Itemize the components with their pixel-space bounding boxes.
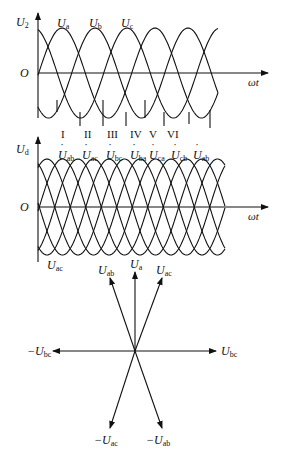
segment-label-6: VI [167, 129, 179, 140]
diagram-canvas [0, 0, 282, 454]
bottom-corner-label: Uac [47, 259, 63, 273]
top-origin-label: O [20, 67, 29, 79]
segment-ticks [57, 100, 210, 128]
phasor-label-uac: Uac [156, 264, 172, 278]
segment-label-2: II [84, 129, 91, 140]
bottom-y-axis-label: Ud [16, 143, 29, 157]
curve-label-ub: Ub [89, 17, 102, 31]
conduct-label-ucb: Ucb [171, 149, 187, 163]
conduct-label-uab: Uab [58, 149, 74, 163]
conduct-label-uba: Uba [130, 149, 146, 163]
top-y-axis-label: U2 [16, 16, 29, 30]
curve-label-uc: Uc [121, 17, 133, 31]
phasor-neg-uab [135, 351, 162, 428]
phasor-label-ua: Ua [130, 258, 142, 272]
curve-label-ua: Ua [57, 17, 69, 31]
phasor-vectors [53, 272, 216, 428]
segment-label-4: IV [130, 129, 142, 140]
phasor-uab [110, 278, 135, 351]
top-x-axis-label: ωt [248, 77, 259, 88]
phasor-uac [135, 278, 162, 351]
phasor-label-ubc: Ubc [221, 345, 237, 359]
phasor-label-uab: Uab [98, 264, 114, 278]
conduct-label-uca: Uca [149, 149, 165, 163]
segment-label-3: III [107, 129, 118, 140]
segment-label-5: V [149, 129, 157, 140]
conduct-label-ubc: Ubc [106, 149, 122, 163]
phasor-label-neg-uac: −Uac [94, 434, 118, 448]
bottom-x-axis-label: ωt [248, 211, 259, 222]
bottom-origin-label: O [20, 201, 29, 213]
phasor-label-neg-uab: −Uab [146, 434, 170, 448]
conduct-label-uab-2: Uab [193, 149, 209, 163]
segment-label-1: I [61, 129, 65, 140]
phasor-label-neg-ubc: −Ubc [27, 345, 51, 359]
phasor-neg-uac [110, 351, 135, 428]
conduct-label-uac: Uac [82, 149, 98, 163]
